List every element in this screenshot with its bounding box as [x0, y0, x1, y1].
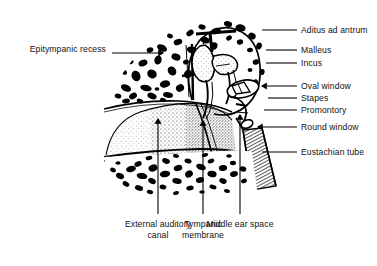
arrowhead-middle-ear-space: [237, 115, 242, 119]
label-stapes: Stapes: [301, 93, 328, 103]
label-promontory: Promontory: [301, 105, 346, 115]
label-incus: Incus: [301, 58, 322, 68]
label-eustachian-tube: Eustachian tube: [301, 147, 364, 157]
label-malleus: Malleus: [301, 45, 331, 55]
label-middle-ear-space: Middle ear space: [205, 219, 275, 230]
label-oval-window: Oval window: [301, 81, 351, 91]
label-aditus-ad-antrum: Aditus ad antrum: [301, 25, 368, 35]
label-round-window: Round window: [301, 122, 359, 132]
ear-anatomy-figure: Aditus ad antrumMalleusIncusOval windowS…: [0, 0, 377, 266]
label-epitympanic-recess: Epitympanic recess: [10, 44, 106, 54]
